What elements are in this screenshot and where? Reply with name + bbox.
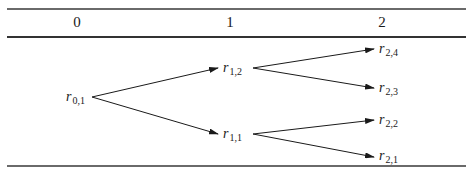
edge-r11-r22 <box>253 120 374 134</box>
node-subscript: 2,1 <box>385 154 398 165</box>
node-subscript: 0,1 <box>72 95 85 106</box>
table-bottom-rule <box>7 165 466 167</box>
node-r21: r2,1 <box>379 149 398 165</box>
edge-r12-r23 <box>253 68 374 88</box>
node-r11: r1,1 <box>223 127 242 143</box>
node-base: r <box>379 112 384 127</box>
node-r12: r1,2 <box>223 61 242 77</box>
edge-r01-r11 <box>92 97 218 134</box>
edge-r12-r24 <box>253 49 374 68</box>
edge-r11-r21 <box>253 134 374 157</box>
binomial-tree-edges <box>0 0 475 173</box>
node-subscript: 2,2 <box>385 118 398 129</box>
node-base: r <box>379 41 384 56</box>
node-subscript: 1,2 <box>229 66 242 77</box>
node-base: r <box>223 60 228 75</box>
node-subscript: 1,1 <box>229 132 242 143</box>
node-base: r <box>379 148 384 163</box>
node-base: r <box>379 80 384 95</box>
edge-r01-r12 <box>92 68 218 97</box>
node-r24: r2,4 <box>379 42 398 58</box>
node-base: r <box>223 126 228 141</box>
node-r01: r0,1 <box>66 90 85 106</box>
node-base: r <box>66 89 71 104</box>
node-r23: r2,3 <box>379 81 398 97</box>
node-subscript: 2,4 <box>385 47 398 58</box>
node-subscript: 2,3 <box>385 86 398 97</box>
node-r22: r2,2 <box>379 113 398 129</box>
